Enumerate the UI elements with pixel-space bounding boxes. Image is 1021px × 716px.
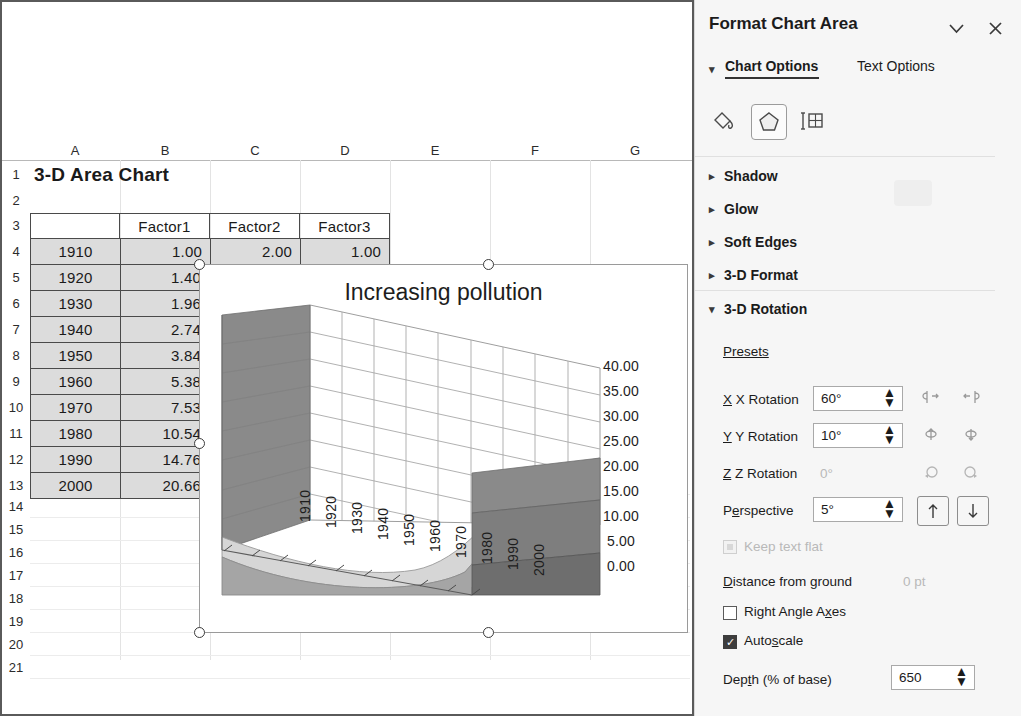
row-header-1[interactable]: 1 — [4, 162, 28, 188]
chevron-down-icon-chart-options[interactable]: ▾ — [709, 63, 715, 76]
table-cell[interactable]: 1960 — [30, 369, 120, 395]
cell-b3-header[interactable]: Factor1 — [120, 213, 210, 239]
section-3d-format[interactable]: ▸ 3-D Format — [709, 267, 798, 283]
row-header-6[interactable]: 6 — [4, 291, 28, 317]
table-cell[interactable]: 7.53 — [120, 395, 210, 421]
chart-resize-handle-bottom-center[interactable] — [483, 627, 494, 638]
spinner-arrows[interactable]: ▲▼ — [869, 389, 896, 407]
section-glow[interactable]: ▸ Glow — [709, 201, 758, 217]
chart-plot-area[interactable] — [200, 295, 620, 605]
chart-resize-handle-bottom-left[interactable] — [194, 627, 205, 638]
y-rotation-input[interactable]: 10° ▲▼ — [813, 423, 903, 448]
column-header-row: A B C D E F G — [2, 141, 694, 161]
row-header-21[interactable]: 21 — [4, 655, 28, 681]
options-tab-bar: ▾ Chart Options Text Options — [709, 58, 1009, 86]
perspective-label: Perspective — [723, 503, 794, 518]
table-cell[interactable]: 2.74 — [120, 317, 210, 343]
table-cell[interactable]: 5.38 — [120, 369, 210, 395]
table-cell[interactable]: 1950 — [30, 343, 120, 369]
effects-icon[interactable] — [751, 104, 787, 140]
table-cell[interactable]: 14.76 — [120, 447, 210, 473]
keep-text-flat-checkbox[interactable] — [723, 540, 737, 554]
narrow-perspective-button[interactable] — [917, 496, 949, 526]
table-cell[interactable]: 1.96 — [120, 291, 210, 317]
row-header-10[interactable]: 10 — [4, 395, 28, 421]
spinner-arrows[interactable]: ▲▼ — [869, 426, 896, 444]
z-rotate-cw-button[interactable] — [957, 460, 985, 486]
row-header-7[interactable]: 7 — [4, 317, 28, 343]
column-header-d[interactable]: D — [300, 141, 390, 160]
row-header-2[interactable]: 2 — [4, 188, 28, 214]
right-angle-axes-checkbox[interactable] — [723, 606, 737, 620]
x-rotation-value: 60° — [814, 391, 841, 406]
x-rotation-input[interactable]: 60° ▲▼ — [813, 386, 903, 411]
distance-from-ground-label: Distance from ground — [723, 574, 852, 589]
spinner-arrows[interactable]: ▲▼ — [941, 668, 968, 686]
section-shadow[interactable]: ▸ Shadow — [709, 168, 778, 184]
chevron-down-icon[interactable] — [944, 16, 968, 40]
right-angle-axes-label: Right Angle Axes — [744, 604, 846, 619]
column-header-e[interactable]: E — [390, 141, 480, 160]
autoscale-checkbox[interactable] — [723, 635, 737, 649]
table-cell[interactable]: 3.84 — [120, 343, 210, 369]
table-cell[interactable]: 1910 — [30, 239, 120, 265]
section-3d-rotation[interactable]: ▾ 3-D Rotation — [709, 301, 807, 317]
x-axis-tick: 1990 — [505, 538, 521, 570]
row-header-3[interactable]: 3 — [4, 213, 28, 239]
column-header-b[interactable]: B — [120, 141, 210, 160]
table-cell[interactable]: 2.00 — [210, 239, 300, 265]
table-cell[interactable]: 1970 — [30, 395, 120, 421]
table-cell[interactable]: 1940 — [30, 317, 120, 343]
y-rotate-up-button[interactable] — [917, 423, 945, 449]
presets-gallery-button[interactable] — [894, 180, 932, 206]
close-icon[interactable] — [983, 16, 1007, 40]
cell-a1-title[interactable]: 3-D Area Chart — [30, 162, 310, 188]
section-soft-edges[interactable]: ▸ Soft Edges — [709, 234, 797, 250]
cell-d3-header[interactable]: Factor3 — [300, 213, 390, 239]
chart-resize-handle-top-center[interactable] — [483, 259, 494, 270]
table-cell[interactable]: 20.66 — [120, 473, 210, 499]
x-rotate-left-button[interactable] — [917, 386, 945, 412]
column-header-a[interactable]: A — [30, 141, 120, 160]
column-header-c[interactable]: C — [210, 141, 300, 160]
pentagon-glyph — [757, 110, 781, 134]
spinner-arrows[interactable]: ▲▼ — [869, 500, 896, 518]
x-axis-tick: 2000 — [531, 544, 547, 576]
table-cell[interactable]: 2000 — [30, 473, 120, 499]
tab-chart-options[interactable]: Chart Options — [725, 58, 818, 74]
table-cell[interactable]: 1990 — [30, 447, 120, 473]
cell-c3-header[interactable]: Factor2 — [210, 213, 300, 239]
chart-resize-handle-top-left[interactable] — [194, 259, 205, 270]
x-axis-tick: 1960 — [427, 520, 443, 552]
perspective-label-text: rspective — [740, 503, 794, 518]
tab-active-underline — [725, 77, 819, 79]
row-header-9[interactable]: 9 — [4, 369, 28, 395]
cell-a3[interactable] — [30, 213, 120, 239]
column-header-g[interactable]: G — [590, 141, 680, 160]
x-rotate-right-button[interactable] — [957, 386, 985, 412]
table-cell[interactable]: 1920 — [30, 265, 120, 291]
row-header-4[interactable]: 4 — [4, 239, 28, 265]
table-cell[interactable]: 1.00 — [300, 239, 390, 265]
y-axis-tick: 40.00 — [603, 358, 639, 374]
depth-input[interactable]: 650 ▲▼ — [891, 665, 975, 690]
widen-perspective-button[interactable] — [957, 496, 989, 526]
table-cell[interactable]: 1930 — [30, 291, 120, 317]
row-header-11[interactable]: 11 — [4, 421, 28, 447]
tab-text-options[interactable]: Text Options — [857, 58, 935, 74]
row-header-5[interactable]: 5 — [4, 265, 28, 291]
row-header-12[interactable]: 12 — [4, 447, 28, 473]
chart-resize-handle-mid-left[interactable] — [194, 438, 205, 449]
row-header-8[interactable]: 8 — [4, 343, 28, 369]
fill-and-line-icon[interactable] — [707, 104, 741, 138]
table-cell[interactable]: 1980 — [30, 421, 120, 447]
chart-object[interactable]: Increasing pollution — [199, 264, 688, 633]
y-rotate-down-button[interactable] — [957, 423, 985, 449]
perspective-input[interactable]: 5° ▲▼ — [813, 497, 903, 522]
z-rotate-ccw-button[interactable] — [917, 460, 945, 486]
y-axis-tick: 30.00 — [603, 408, 639, 424]
size-and-properties-icon[interactable] — [795, 104, 829, 138]
column-header-f[interactable]: F — [490, 141, 580, 160]
rotate-down-y-icon — [961, 426, 981, 446]
gridline — [30, 678, 690, 679]
